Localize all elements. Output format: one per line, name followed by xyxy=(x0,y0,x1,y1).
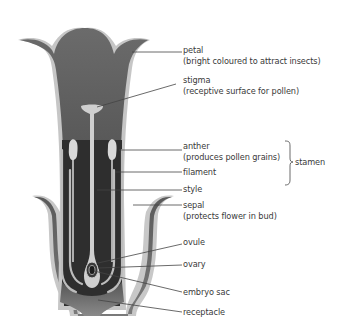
label-name: style xyxy=(183,184,202,194)
label-description: (protects flower in bud) xyxy=(183,211,277,222)
label-description: (receptive surface for pollen) xyxy=(183,86,299,97)
label-name: sepal xyxy=(183,200,204,210)
label-filament: filament xyxy=(183,167,216,178)
label-name: ovule xyxy=(183,237,205,247)
label-sepal: sepal (protects flower in bud) xyxy=(183,200,277,221)
label-description: (bright coloured to attract insects) xyxy=(183,56,321,67)
group-name: stamen xyxy=(295,157,325,167)
label-description: (produces pollen grains) xyxy=(183,152,280,163)
label-name: filament xyxy=(183,167,216,177)
label-name: receptacle xyxy=(183,307,225,317)
label-petal: petal (bright coloured to attract insect… xyxy=(183,45,321,66)
label-style: style xyxy=(183,184,202,195)
label-ovary: ovary xyxy=(183,259,206,270)
stamen-brace xyxy=(285,141,293,185)
label-name: stigma xyxy=(183,75,210,85)
label-ovule: ovule xyxy=(183,237,205,248)
label-name: embryo sac xyxy=(183,287,230,297)
label-name: ovary xyxy=(183,259,206,269)
label-anther: anther (produces pollen grains) xyxy=(183,141,280,162)
label-stamen: stamen xyxy=(295,157,325,168)
label-name: anther xyxy=(183,141,209,151)
label-name: petal xyxy=(183,45,203,55)
label-receptacle: receptacle xyxy=(183,307,225,318)
label-stigma: stigma (receptive surface for pollen) xyxy=(183,75,299,96)
ovule-shape xyxy=(86,262,98,278)
label-embryo-sac: embryo sac xyxy=(183,287,230,298)
